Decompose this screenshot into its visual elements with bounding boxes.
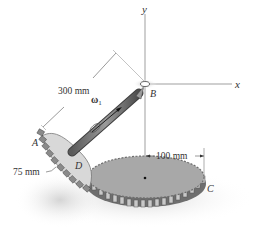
point-c-label: C	[207, 183, 214, 194]
point-d-label: D	[74, 160, 83, 171]
dimension-75mm-leader	[46, 167, 56, 172]
dimension-300mm	[41, 50, 145, 130]
y-axis-label: y	[141, 3, 147, 15]
omega-label: ω1	[91, 94, 102, 107]
gear-diagram: y x	[0, 0, 257, 237]
dimension-300mm-label: 300 mm	[58, 86, 90, 96]
large-gear	[86, 156, 206, 207]
dimension-100mm-label: 100 mm	[156, 151, 188, 161]
dimension-75mm-label: 75 mm	[13, 167, 40, 177]
point-a-label: A	[31, 137, 39, 148]
x-axis-label: x	[234, 78, 240, 90]
point-b-label: B	[150, 88, 156, 99]
